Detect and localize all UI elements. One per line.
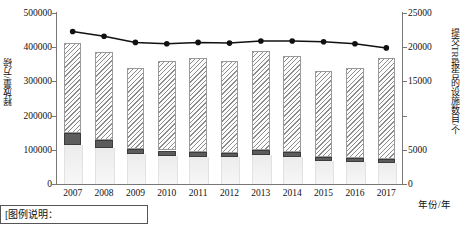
bar-segment-middle [346, 158, 364, 162]
bar-stack [189, 13, 207, 184]
y-tick-label-left: 100000 [4, 145, 52, 155]
y-tick-mark-right [403, 81, 407, 82]
bar-segment-top [158, 61, 176, 151]
bar-stack [283, 13, 301, 184]
bar-segment-top [315, 71, 333, 157]
x-axis-line [56, 184, 403, 185]
y-tick-mark-right [403, 184, 407, 185]
bar-segment-bottom [95, 148, 115, 184]
x-tick-label: 2009 [126, 188, 145, 198]
bar-segment-middle [158, 151, 176, 156]
y-tick-mark-left [52, 184, 56, 185]
bar-stack [378, 13, 396, 184]
bar-segment-top [64, 43, 82, 133]
bar-segment-middle [64, 133, 82, 145]
y-tick-label-left: 0 [4, 179, 52, 189]
x-tick-label: 2011 [189, 188, 208, 198]
bar-segment-bottom [158, 156, 178, 184]
x-tick-label: 2013 [251, 188, 270, 198]
x-tick-label: 2008 [95, 188, 114, 198]
y-tick-mark-left [52, 13, 56, 14]
y-tick-mark-right [403, 150, 407, 151]
bar-segment-middle [378, 159, 396, 163]
y-tick-mark-right [403, 13, 407, 14]
bar-segment-bottom [221, 157, 241, 184]
bar-segment-top [283, 56, 301, 152]
y-tick-label-right: 20000 [408, 42, 452, 52]
legend-caption-box: [图例说明： [0, 205, 148, 224]
bar-segment-bottom [346, 162, 366, 184]
bar-stack [221, 13, 239, 184]
chart-figure: 释放量/万磅 提交TRI报告的设施数目/个 年份/年 0100000200000… [0, 0, 467, 225]
y-tick-label-right: 0 [408, 179, 452, 189]
x-tick-label: 2007 [63, 188, 82, 198]
x-tick-label: 2016 [345, 188, 364, 198]
y-tick-label-left: 500000 [4, 8, 52, 18]
bar-segment-middle [283, 152, 301, 157]
bar-segment-middle [221, 153, 239, 158]
bar-stack [158, 13, 176, 184]
y-tick-label-left: 400000 [4, 42, 52, 52]
y-tick-mark-left [52, 47, 56, 48]
bar-segment-bottom [189, 157, 209, 184]
bar-stack [95, 13, 113, 184]
bar-segment-bottom [315, 161, 335, 184]
bar-segment-middle [189, 152, 207, 157]
bar-stack [252, 13, 270, 184]
bar-stack [315, 13, 333, 184]
bar-segment-top [346, 68, 364, 158]
bar-segment-bottom [64, 145, 84, 184]
x-tick-label: 2010 [157, 188, 176, 198]
bar-segment-top [221, 61, 239, 153]
bar-segment-middle [127, 149, 145, 154]
y-tick-mark-left [52, 150, 56, 151]
bar-stack [346, 13, 364, 184]
bar-stack [64, 13, 82, 184]
x-tick-label: 2012 [220, 188, 239, 198]
y-tick-mark-left [52, 81, 56, 82]
y-tick-mark-left [52, 116, 56, 117]
x-tick-label: 2014 [283, 188, 302, 198]
bar-segment-bottom [283, 157, 303, 184]
bar-segment-top [189, 58, 207, 151]
bar-stack [127, 13, 145, 184]
y-tick-label-right: 15000 [408, 76, 452, 86]
y-axis-right-line [402, 12, 403, 185]
bar-segment-middle [315, 157, 333, 161]
y-tick-label-left: 300000 [4, 76, 52, 86]
bar-segment-bottom [378, 163, 398, 184]
bar-segment-top [95, 52, 113, 140]
y-tick-mark-right [403, 116, 407, 117]
y-tick-label-right: 25000 [408, 8, 452, 18]
bar-segment-top [378, 58, 396, 159]
bar-segment-bottom [127, 154, 147, 184]
bar-segment-top [127, 68, 145, 149]
x-tick-label: 2015 [314, 188, 333, 198]
x-tick-label: 2017 [377, 188, 396, 198]
y-tick-mark-right [403, 47, 407, 48]
y-tick-label-left: 200000 [4, 111, 52, 121]
bar-segment-top [252, 51, 270, 150]
plot-area [57, 13, 402, 184]
bar-segment-middle [252, 150, 270, 155]
bar-segment-middle [95, 140, 113, 148]
bar-segment-bottom [252, 155, 272, 184]
y-tick-label-right: 5000 [408, 145, 452, 155]
x-axis-title: 年份/年 [418, 197, 451, 211]
